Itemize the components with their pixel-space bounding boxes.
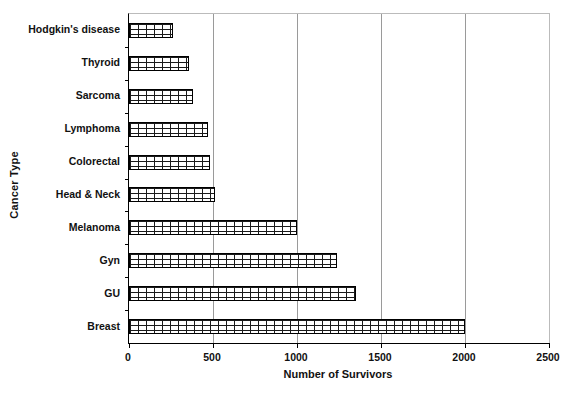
y-axis-tick-label: Gyn [100, 253, 120, 267]
y-axis-tick-label: Sarcoma [76, 88, 120, 102]
bar [129, 89, 193, 104]
gridline-1500 [381, 14, 382, 343]
x-axis-tick-label: 2500 [536, 351, 559, 363]
y-axis-tick-label: Thyroid [82, 55, 121, 69]
y-axis-tick-labels: Hodgkin's diseaseThyroidSarcomaLymphomaC… [18, 13, 124, 342]
bar [129, 187, 215, 202]
y-axis-tick-label: Lymphoma [64, 121, 120, 135]
bar [129, 220, 297, 235]
gridline-2000 [465, 14, 466, 343]
x-axis-tick [549, 343, 550, 348]
y-axis-tick-label: Colorectal [69, 154, 120, 168]
x-axis-tick [129, 343, 130, 348]
y-axis-tick-label: Melanoma [69, 220, 120, 234]
plot-area [128, 13, 550, 344]
y-axis-tick [125, 310, 129, 311]
x-axis-title-text: Number of Survivors [284, 368, 393, 380]
y-axis-tick [125, 146, 129, 147]
y-axis-tick [125, 244, 129, 245]
y-axis-tick [125, 113, 129, 114]
y-axis-tick [125, 277, 129, 278]
x-axis-tick [297, 343, 298, 348]
bar [129, 122, 208, 137]
y-axis-tick-label: Hodgkin's disease [28, 22, 120, 36]
x-axis-tick-label: 1000 [284, 351, 307, 363]
x-axis-tick-labels: 05001000150020002500 [128, 351, 548, 365]
x-axis-tick [381, 343, 382, 348]
y-axis-tick-label: Breast [87, 319, 120, 333]
x-axis-tick-label: 500 [203, 351, 221, 363]
y-axis-tick [125, 47, 129, 48]
bar [129, 286, 356, 301]
x-axis-tick-label: 0 [125, 351, 131, 363]
bar [129, 319, 465, 334]
x-axis-tick-label: 2000 [452, 351, 475, 363]
y-axis-tick [125, 179, 129, 180]
bar [129, 253, 337, 268]
bar-chart: Cancer Type Hodgkin's diseaseThyroidSarc… [0, 0, 580, 393]
x-axis-title: Number of Survivors [128, 368, 548, 380]
bar [129, 23, 173, 38]
y-axis-tick [125, 80, 129, 81]
y-axis-tick-label: Head & Neck [56, 187, 120, 201]
y-axis-tick-label: GU [104, 286, 120, 300]
x-axis-tick [465, 343, 466, 348]
x-axis-tick-label: 1500 [368, 351, 391, 363]
bar [129, 155, 210, 170]
x-axis-tick [213, 343, 214, 348]
y-axis-tick [125, 211, 129, 212]
bar [129, 56, 189, 71]
